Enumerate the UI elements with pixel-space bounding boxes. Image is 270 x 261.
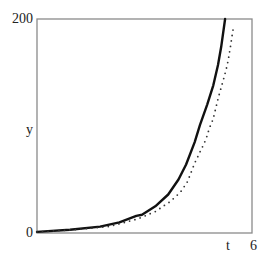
approximation-dot (149, 213, 151, 215)
approximation-dot (96, 227, 98, 229)
approximation-dot (42, 231, 44, 233)
approximation-dot (164, 205, 166, 207)
approximation-dot (134, 219, 136, 221)
approximation-dot (168, 202, 170, 204)
approximation-dot (216, 104, 218, 106)
approximation-dot (47, 230, 49, 232)
approximation-dot (206, 136, 208, 138)
chart-canvas (0, 0, 270, 261)
approximation-dot (183, 186, 185, 188)
approximation-dot (91, 227, 93, 229)
approximation-dot (58, 230, 60, 232)
approximation-dot (86, 228, 88, 230)
approximation-dot (139, 217, 141, 219)
y-tick-label-bottom: 0 (26, 226, 33, 240)
approximation-dot (231, 35, 233, 37)
approximation-dot (69, 229, 71, 231)
approximation-dot (221, 83, 223, 85)
approximation-dot (202, 146, 204, 148)
approximation-dot (211, 120, 213, 122)
approximation-dot (220, 88, 222, 90)
approximation-dot (224, 72, 226, 74)
approximation-dot (218, 94, 220, 96)
approximation-dot (199, 151, 201, 153)
approximation-dot (176, 194, 178, 196)
approximation-dot (232, 29, 234, 31)
approximation-dot (227, 62, 229, 64)
approximation-dot (226, 67, 228, 69)
approximation-dot (172, 198, 174, 200)
approximation-dot (144, 215, 146, 217)
approximation-dot (180, 190, 182, 192)
approximation-dot (118, 223, 120, 225)
approximation-dot (113, 224, 115, 226)
approximation-dot (229, 51, 231, 53)
approximation-dot (197, 156, 199, 158)
approximation-dot (154, 211, 156, 213)
approximation-dot (107, 226, 109, 228)
y-axis-label: y (26, 123, 33, 137)
approximation-dot (123, 222, 125, 224)
approximation-dot (36, 231, 38, 233)
approximation-dot (75, 229, 77, 231)
approximation-dot (230, 40, 232, 42)
approximation-dots (36, 29, 234, 233)
approximation-dot (188, 176, 190, 178)
approximation-dot (129, 220, 131, 222)
approximation-dot (53, 230, 55, 232)
solution-curve (37, 19, 225, 232)
approximation-dot (208, 131, 210, 133)
approximation-dot (228, 56, 230, 58)
approximation-dot (159, 208, 161, 210)
approximation-dot (217, 99, 219, 101)
approximation-dot (209, 125, 211, 127)
approximation-dot (192, 166, 194, 168)
approximation-dot (190, 171, 192, 173)
y-tick-label-top: 200 (12, 12, 33, 26)
approximation-dot (186, 181, 188, 183)
approximation-dot (102, 226, 104, 228)
approximation-dot (195, 161, 197, 163)
x-axis-label: t (226, 239, 230, 253)
approximation-dot (213, 115, 215, 117)
approximation-dot (64, 229, 66, 231)
approximation-dot (214, 110, 216, 112)
x-tick-label-right: 6 (250, 239, 257, 253)
approximation-dot (230, 46, 232, 48)
approximation-dot (204, 141, 206, 143)
approximation-dot (80, 228, 82, 230)
approximation-dot (223, 78, 225, 80)
